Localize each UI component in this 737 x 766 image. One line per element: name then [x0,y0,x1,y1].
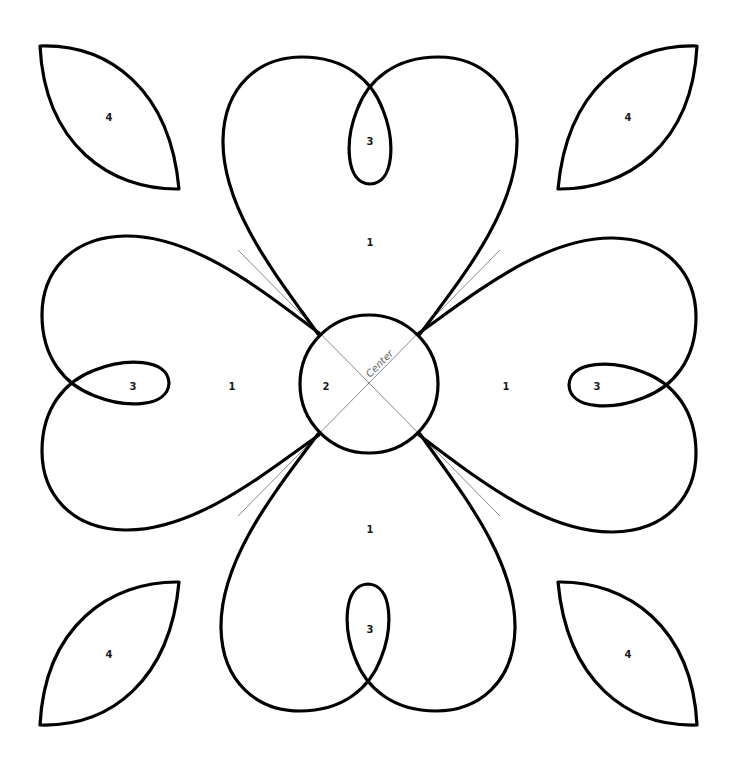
heart-petal-top [223,57,517,334]
leaf-top-left: 4 [40,46,179,189]
leaf-top-left-label: 4 [106,112,113,123]
circle-label: 2 [323,381,330,392]
center-label: Center [364,347,396,379]
leaf-bottom-right-label: 4 [625,649,632,660]
top-loop-label: 3 [367,136,374,147]
right-heart-label: 1 [503,381,510,392]
leaf-bottom-right: 4 [558,582,697,725]
right-loop-label: 3 [594,381,601,392]
heart-petal-bottom [221,434,515,711]
top-heart-label: 1 [367,237,374,248]
leaf-bottom-left-label: 4 [106,649,113,660]
bottom-loop-label: 3 [367,624,374,635]
left-heart-label: 1 [229,381,236,392]
left-loop-label: 3 [130,381,137,392]
leaf-top-right: 4 [558,46,697,189]
heart-petal-right [419,238,696,532]
heart-petal-left [42,236,319,530]
leaf-top-right-label: 4 [625,112,632,123]
leaf-bottom-left: 4 [40,582,179,725]
quilt-pattern-diagram: 4 4 4 4 Center 3 1 3 1 3 1 3 1 2 [0,0,737,766]
center-circle [300,315,438,453]
bottom-heart-label: 1 [367,524,374,535]
